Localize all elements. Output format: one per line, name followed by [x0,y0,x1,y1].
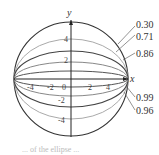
x-tick: 2 [88,83,92,92]
leader-086 [123,53,135,60]
ecc-label-071: 0.71 [136,31,154,42]
axes: x y [14,7,135,137]
y-tick: -2 [58,96,65,105]
ecc-label-096: 0.96 [136,105,154,116]
ecc-label-086: 0.86 [136,48,154,59]
leader-030 [118,26,135,44]
x-tick: 4 [106,83,110,92]
y-tick: 4 [64,35,68,44]
leader-099 [126,86,135,97]
x-tick: -4 [27,83,34,92]
x-tick: -2 [47,83,54,92]
x-tick: 0 [62,83,66,92]
y-tick: 2 [64,56,68,65]
caption-fragment: ... of the ellipse ... [22,145,79,154]
y-axis-label: y [66,7,72,18]
eccentricity-labels: 0.30 0.71 0.86 0.99 0.96 [136,19,154,116]
ellipse-diagram: x y -4 -2 0 2 4 4 2 -2 -4 0.30 0.71 0.86… [0,0,159,155]
x-axis-label: x [129,73,135,84]
y-tick-labels: 4 2 -2 -4 [58,35,68,125]
x-tick-labels: -4 -2 0 2 4 [27,83,110,92]
ecc-label-099: 0.99 [136,92,154,103]
y-tick: -4 [58,116,65,125]
ecc-label-030: 0.30 [136,19,154,30]
